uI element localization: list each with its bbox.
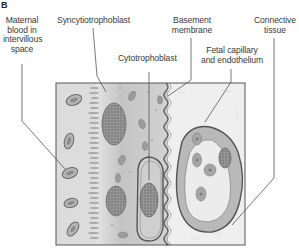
placenta-diagram <box>0 0 299 249</box>
label-syncytiotrophoblast: Syncytiotrophoblast <box>57 16 130 26</box>
label-maternal-blood: Maternal blood in intervillous space <box>3 16 41 54</box>
label-fetal-capillary: Fetal capillary and endothelium <box>200 46 264 65</box>
syncytial-nucleus <box>106 186 126 216</box>
label-cytotrophoblast: Cytotrophoblast <box>118 54 177 64</box>
tissue-block <box>56 83 245 245</box>
syncytial-nucleus <box>102 103 126 145</box>
leader-syncytiotrophoblast <box>93 28 106 92</box>
cytotrophoblast-nucleus <box>140 183 158 217</box>
endothelial-nucleus <box>219 148 231 168</box>
intervillous-space <box>56 83 96 245</box>
label-connective-tissue: Connective tissue <box>252 16 298 35</box>
label-basement-membrane: Basement membrane <box>168 16 216 35</box>
